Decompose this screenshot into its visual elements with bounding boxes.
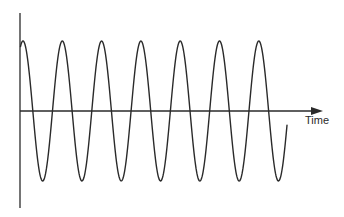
waveform-diagram xyxy=(0,0,344,217)
time-axis-label: Time xyxy=(305,115,329,126)
